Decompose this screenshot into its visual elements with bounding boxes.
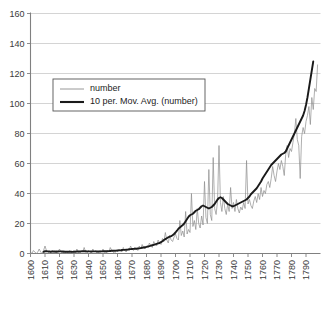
x-axis-tick-label: 1620 — [55, 260, 65, 280]
x-axis-tick-label: 1710 — [185, 260, 195, 280]
legend-label-number: number — [90, 83, 121, 93]
x-axis-tick-label: 1720 — [200, 260, 210, 280]
line-chart: 020406080100120140160 160016101620163016… — [0, 0, 328, 322]
x-axis-tick-label: 1770 — [272, 260, 282, 280]
x-axis-tick-label: 1690 — [156, 260, 166, 280]
x-axis-tick-label: 1790 — [301, 260, 311, 280]
gridlines — [31, 14, 321, 224]
x-axis-tick-label: 1750 — [243, 260, 253, 280]
x-axis-tick-label: 1740 — [229, 260, 239, 280]
x-axis-labels: 1600161016201630164016501660167016801690… — [26, 260, 312, 280]
y-axis-labels: 020406080100120140160 — [9, 9, 24, 259]
x-axis-tick-label: 1660 — [113, 260, 123, 280]
y-axis-tick-label: 60 — [14, 159, 24, 169]
x-axis-tick-label: 1640 — [84, 260, 94, 280]
x-axis-tick-label: 1600 — [26, 260, 36, 280]
x-axis-tick-label: 1630 — [69, 260, 79, 280]
y-axis-tick-label: 160 — [9, 9, 24, 19]
x-axis-tick-label: 1610 — [40, 260, 50, 280]
x-axis-tick-label: 1760 — [258, 260, 268, 280]
chart-container: 020406080100120140160 160016101620163016… — [0, 0, 328, 322]
y-axis-tick-label: 140 — [9, 39, 24, 49]
y-axis-tick-label: 100 — [9, 99, 24, 109]
y-axis-tick-label: 80 — [14, 129, 24, 139]
y-axis-tick-label: 20 — [14, 219, 24, 229]
x-axis-tick-label: 1780 — [287, 260, 297, 280]
y-axis-tick-label: 40 — [14, 189, 24, 199]
legend: number 10 per. Mov. Avg. (number) — [53, 79, 205, 111]
x-axis-tick-label: 1730 — [214, 260, 224, 280]
y-axis-tick-label: 0 — [19, 249, 24, 259]
legend-label-moving-average: 10 per. Mov. Avg. (number) — [90, 96, 198, 106]
x-axis-tick-label: 1700 — [171, 260, 181, 280]
y-axis-tick-label: 120 — [9, 69, 24, 79]
x-axis-tick-label: 1650 — [98, 260, 108, 280]
x-axis-tick-label: 1670 — [127, 260, 137, 280]
x-axis-tick-label: 1680 — [142, 260, 152, 280]
